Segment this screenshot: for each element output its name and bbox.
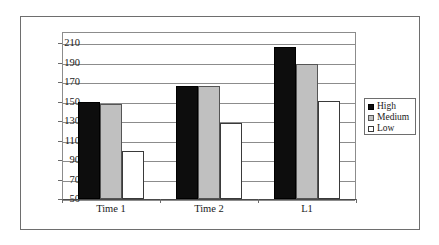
legend-item-high: High	[368, 101, 412, 112]
bar-time-1-low	[122, 151, 144, 199]
bar-time-1-medium	[100, 104, 122, 199]
legend-swatch-icon	[368, 104, 374, 110]
legend-label: High	[377, 101, 396, 112]
x-axis-label: Time 2	[160, 203, 258, 214]
legend-item-low: Low	[368, 123, 412, 134]
legend-label: Medium	[377, 112, 409, 123]
chart-legend: HighMediumLow	[364, 98, 416, 135]
legend-swatch-icon	[368, 126, 374, 132]
x-axis-separator	[160, 199, 161, 203]
gridline	[63, 200, 355, 201]
chart-canvas: Syllables per minute 5070901101301501701…	[21, 17, 421, 231]
bar-time-2-high	[176, 86, 198, 199]
y-tick-label: 190	[54, 58, 80, 68]
y-tick-label: 130	[54, 116, 80, 126]
x-axis-label: L1	[258, 203, 356, 214]
bar-l1-low	[318, 101, 340, 199]
bar-l1-medium	[296, 64, 318, 199]
figure-frame: Syllables per minute 5070901101301501701…	[20, 16, 420, 230]
x-axis-end-tick	[62, 199, 63, 203]
y-tick-label: 70	[54, 175, 80, 185]
x-axis-line	[62, 199, 357, 200]
y-tick-label: 90	[54, 155, 80, 165]
bar-time-2-medium	[198, 86, 220, 199]
x-axis-end-tick	[356, 199, 357, 203]
bar-l1-high	[274, 47, 296, 199]
x-axis-separator	[258, 199, 259, 203]
legend-item-medium: Medium	[368, 112, 412, 123]
x-axis-label: Time 1	[62, 203, 160, 214]
y-tick-label: 210	[54, 38, 80, 48]
y-tick-label: 110	[54, 136, 80, 146]
bar-time-1-high	[78, 102, 100, 200]
gridline	[63, 44, 355, 45]
y-tick-label: 170	[54, 77, 80, 87]
y-tick-label: 150	[54, 97, 80, 107]
bar-time-2-low	[220, 123, 242, 199]
chart-figure: Syllables per minute 5070901101301501701…	[0, 0, 439, 245]
legend-swatch-icon	[368, 115, 374, 121]
legend-label: Low	[377, 123, 394, 134]
